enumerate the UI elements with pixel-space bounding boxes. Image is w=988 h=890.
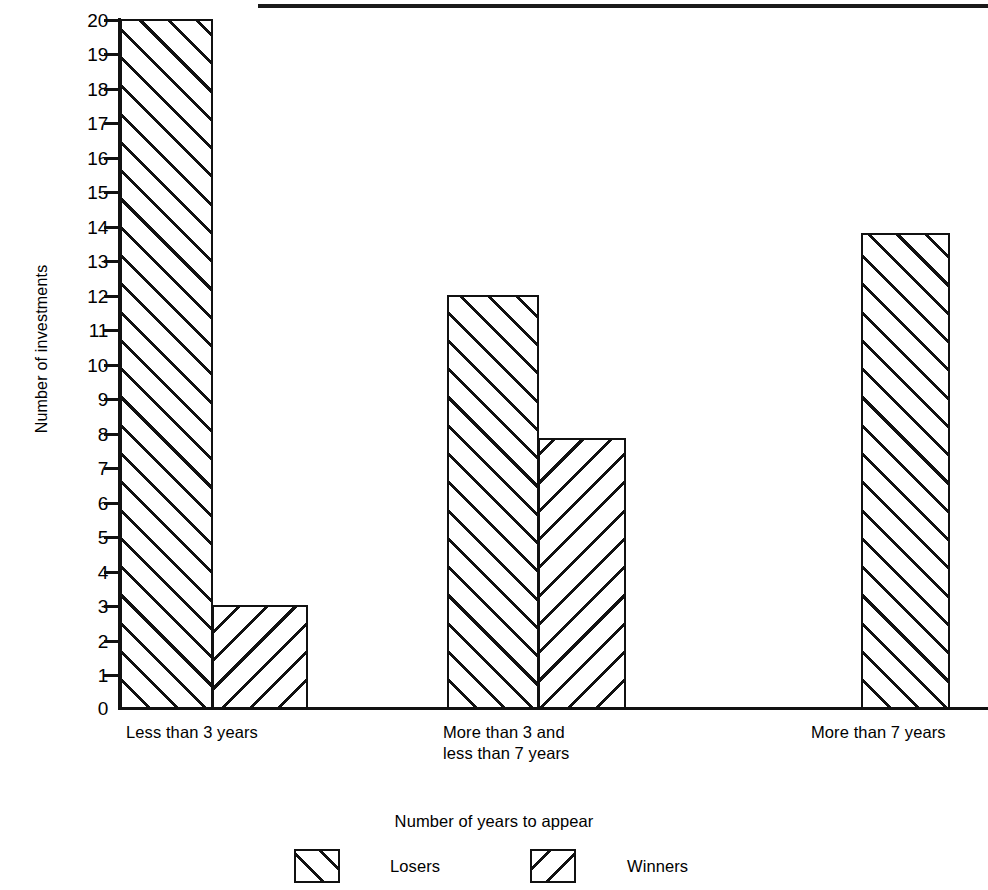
y-tick-label-11: 11 [74, 321, 108, 340]
y-tick-mark-13 [104, 260, 120, 263]
y-tick-label-19: 19 [74, 45, 108, 64]
y-tick-mark-11 [104, 329, 120, 332]
y-tick-label-2: 2 [74, 632, 108, 651]
x-tick-label-more-than-7-years: More than 7 years [811, 722, 946, 743]
y-tick-mark-15 [104, 191, 120, 194]
y-tick-mark-10 [104, 364, 120, 367]
bar-winners-more-than-3-less-than-7-years [538, 438, 626, 709]
y-tick-label-3: 3 [74, 597, 108, 616]
y-tick-label-18: 18 [74, 80, 108, 99]
y-tick-mark-16 [104, 157, 120, 160]
y-tick-mark-1 [104, 674, 120, 677]
legend-label-winners: Winners [627, 857, 688, 876]
bar-losers-less-than-3-years [120, 19, 213, 709]
y-tick-label-6: 6 [74, 494, 108, 513]
y-tick-label-16: 16 [74, 149, 108, 168]
y-tick-mark-14 [104, 226, 120, 229]
y-tick-label-13: 13 [74, 252, 108, 271]
y-tick-mark-6 [104, 502, 120, 505]
legend-label-losers: Losers [390, 857, 440, 876]
y-tick-mark-18 [104, 88, 120, 91]
y-tick-mark-19 [104, 53, 120, 56]
y-tick-mark-17 [104, 122, 120, 125]
y-tick-mark-2 [104, 640, 120, 643]
y-tick-label-10: 10 [74, 356, 108, 375]
y-tick-label-20: 20 [74, 11, 108, 30]
bar-losers-more-than-3-less-than-7-years [447, 295, 539, 709]
y-tick-label-4: 4 [74, 563, 108, 582]
legend-swatch-winners [530, 849, 576, 883]
y-tick-label-8: 8 [74, 425, 108, 444]
y-tick-mark-8 [104, 433, 120, 436]
y-tick-mark-12 [104, 295, 120, 298]
y-tick-label-14: 14 [74, 218, 108, 237]
y-tick-mark-7 [104, 467, 120, 470]
x-tick-label-less-than-3-years: Less than 3 years [126, 722, 258, 743]
y-tick-mark-3 [104, 605, 120, 608]
y-tick-label-0: 0 [74, 699, 108, 718]
y-tick-mark-9 [104, 398, 120, 401]
y-axis-title: Number of investments [33, 229, 51, 469]
legend-swatch-losers [294, 849, 340, 883]
y-tick-label-9: 9 [74, 390, 108, 409]
bar-chart-figure: Number of investments 20 19 18 17 16 15 … [0, 0, 988, 890]
top-rule-divider [258, 4, 988, 8]
y-tick-mark-4 [104, 571, 120, 574]
y-tick-label-1: 1 [74, 666, 108, 685]
y-tick-label-15: 15 [74, 183, 108, 202]
y-tick-mark-20 [104, 19, 120, 22]
y-tick-label-17: 17 [74, 114, 108, 133]
y-tick-label-5: 5 [74, 528, 108, 547]
y-tick-label-12: 12 [74, 287, 108, 306]
x-axis-title: Number of years to appear [0, 812, 988, 831]
bar-winners-less-than-3-years [212, 605, 308, 709]
bar-losers-more-than-7-years [861, 233, 950, 709]
y-tick-label-7: 7 [74, 459, 108, 478]
x-tick-label-more-than-3-less-than-7-years: More than 3 and less than 7 years [443, 722, 569, 764]
y-tick-mark-5 [104, 536, 120, 539]
